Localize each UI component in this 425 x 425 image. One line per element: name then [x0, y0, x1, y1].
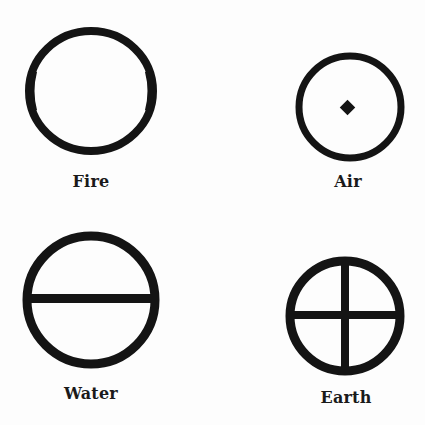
- air-label: Air: [308, 173, 388, 191]
- element-symbols-diagram: Fire Air Water Earth: [0, 0, 425, 425]
- symbols-layer: [0, 0, 425, 425]
- earth-label: Earth: [306, 389, 386, 407]
- earth-symbol-icon: [290, 261, 400, 371]
- air-symbol-icon: [299, 56, 403, 158]
- fire-label: Fire: [51, 173, 131, 191]
- water-symbol-icon: [27, 236, 156, 364]
- fire-symbol-icon: [28, 31, 154, 151]
- water-label: Water: [51, 385, 131, 403]
